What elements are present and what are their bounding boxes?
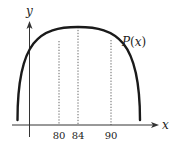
curve-label: P(x) bbox=[121, 35, 146, 49]
parabola-plot: y x P(x) 80 84 90 bbox=[0, 0, 176, 145]
x-axis-label: x bbox=[162, 118, 169, 132]
tick-label-84: 84 bbox=[72, 130, 85, 141]
tick-label-90: 90 bbox=[105, 130, 118, 141]
tick-label-80: 80 bbox=[53, 130, 66, 141]
curve-label-close-paren: ) bbox=[142, 35, 147, 49]
y-axis-label: y bbox=[25, 4, 33, 18]
